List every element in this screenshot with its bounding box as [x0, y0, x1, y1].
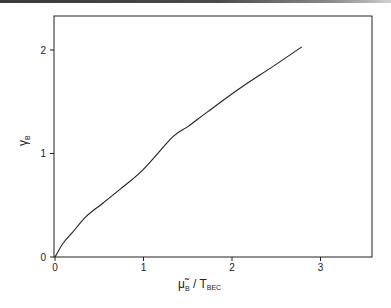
x-tick-label: 2: [229, 262, 235, 273]
x-tick-label: 0: [52, 262, 58, 273]
data-curve: [55, 47, 302, 257]
chart: 0123 012 μ̃B / TBEC γB: [0, 0, 391, 308]
y-axis-ticks: 012: [40, 45, 54, 263]
y-axis-label: γB: [16, 135, 31, 146]
x-axis-ticks: 0123: [52, 257, 324, 273]
y-tick-label: 0: [40, 252, 46, 263]
x-tick-label: 3: [318, 262, 324, 273]
x-tick-label: 1: [141, 262, 147, 273]
y-tick-label: 2: [40, 45, 46, 56]
plot-frame: [54, 16, 372, 257]
x-axis-label: μ̃B / TBEC: [178, 277, 221, 292]
y-tick-label: 1: [40, 148, 46, 159]
